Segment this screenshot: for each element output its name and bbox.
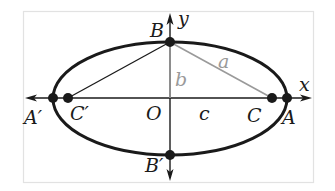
- label-y-axis: y: [177, 7, 189, 29]
- label-a: A: [280, 106, 296, 128]
- label-a-prime: A′: [22, 106, 43, 128]
- label-c-segment: c: [199, 102, 210, 124]
- point-b: [165, 37, 175, 47]
- segment-b-to-c-prime: [68, 42, 170, 98]
- label-origin: O: [146, 102, 162, 124]
- point-a-prime: [48, 93, 58, 103]
- label-a-segment: a: [218, 50, 229, 72]
- label-x-axis: x: [299, 73, 310, 95]
- point-b-prime: [165, 150, 175, 160]
- label-c-prime: C′: [70, 102, 90, 124]
- label-b-prime: B′: [144, 154, 164, 176]
- point-a: [282, 93, 292, 103]
- point-c: [267, 93, 277, 103]
- label-b: B: [149, 19, 164, 41]
- ellipse-diagram: B y x A′ C′ O c C A b a B′: [0, 0, 335, 191]
- label-b-segment: b: [175, 68, 187, 90]
- label-c: C: [247, 104, 262, 126]
